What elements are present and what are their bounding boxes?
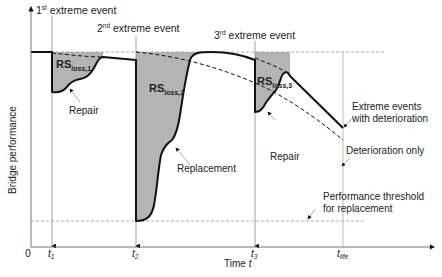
event-label-1: 1st extreme event (36, 4, 116, 16)
tick-tlife: tlife (337, 248, 348, 260)
repair-3-label: Repair (270, 151, 300, 162)
y-axis-label: Bridge performance (7, 106, 18, 194)
resilience-diagram: 1st extreme event 2nd extreme event 3rd … (0, 0, 442, 277)
x-axis-label: Time t (224, 258, 253, 269)
event-label-2: 2nd extreme event (97, 22, 180, 34)
threshold-pointer (308, 209, 315, 219)
event-label-3: 3rd extreme event (214, 29, 295, 41)
origin-label: 0 (25, 248, 31, 259)
repair-1-label: Repair (69, 105, 99, 116)
threshold-label: Performance threshold for replacement (323, 191, 427, 214)
replacement-label: Replacement (177, 163, 236, 174)
deterioration-only-label: Deterioration only (346, 145, 424, 156)
repair-1-pointer (70, 89, 80, 102)
repair-3-pointer (268, 112, 275, 120)
tick-t2: t2 (132, 248, 139, 260)
tick-t3: t3 (251, 248, 258, 260)
extreme-events-label: Extreme events with deterioration (351, 101, 428, 124)
tick-t1: t1 (48, 248, 55, 260)
